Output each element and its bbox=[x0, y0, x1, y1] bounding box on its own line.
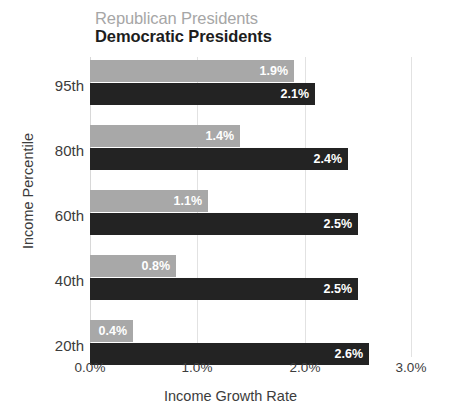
bar-value-label: 2.1% bbox=[281, 88, 310, 101]
bar-republican-40th: 0.8% bbox=[90, 255, 176, 277]
chart-legend: Republican Presidents Democratic Preside… bbox=[95, 10, 272, 46]
legend-item-republican: Republican Presidents bbox=[95, 10, 272, 28]
x-axis-title: Income Growth Rate bbox=[0, 388, 461, 404]
y-axis-ticks: 95th 80th 60th 40th 20th bbox=[0, 57, 84, 357]
bar-republican-60th: 1.1% bbox=[90, 190, 208, 212]
bar-value-label: 1.4% bbox=[206, 130, 235, 143]
x-tick-label: 1.0% bbox=[182, 360, 213, 375]
bar-democratic-95th: 2.1% bbox=[90, 83, 315, 105]
income-growth-chart: Republican Presidents Democratic Preside… bbox=[0, 0, 461, 420]
bar-value-label: 2.5% bbox=[324, 283, 353, 296]
y-tick-label: 40th bbox=[4, 272, 84, 289]
x-tick-label: 2.0% bbox=[290, 360, 321, 375]
x-tick-label: 0.0% bbox=[75, 360, 106, 375]
bar-democratic-80th: 2.4% bbox=[90, 148, 348, 170]
legend-item-democratic: Democratic Presidents bbox=[95, 28, 272, 46]
bar-value-label: 2.4% bbox=[314, 153, 343, 166]
bar-republican-95th: 1.9% bbox=[90, 60, 294, 82]
y-tick-label: 20th bbox=[4, 337, 84, 354]
bar-value-label: 1.1% bbox=[174, 195, 203, 208]
bar-value-label: 2.6% bbox=[335, 348, 364, 361]
plot-area: 1.9% 2.1% 1.4% 2.4% 1.1% 2.5% bbox=[90, 57, 412, 357]
gridline-3pct bbox=[411, 57, 412, 357]
x-tick-label: 3.0% bbox=[396, 360, 427, 375]
bar-value-label: 1.9% bbox=[260, 65, 289, 78]
bar-value-label: 0.4% bbox=[99, 325, 128, 338]
bar-republican-80th: 1.4% bbox=[90, 125, 240, 147]
bar-republican-20th: 0.4% bbox=[90, 320, 133, 342]
y-tick-label: 60th bbox=[4, 207, 84, 224]
bar-democratic-60th: 2.5% bbox=[90, 213, 358, 235]
y-tick-label: 80th bbox=[4, 142, 84, 159]
bar-democratic-40th: 2.5% bbox=[90, 278, 358, 300]
bar-value-label: 0.8% bbox=[142, 260, 171, 273]
x-axis-ticks: 0.0% 1.0% 2.0% 3.0% bbox=[90, 360, 412, 380]
bar-value-label: 2.5% bbox=[324, 218, 353, 231]
y-tick-label: 95th bbox=[4, 77, 84, 94]
